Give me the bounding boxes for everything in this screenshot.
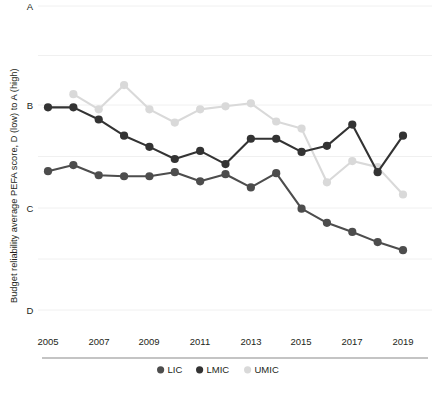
chart-container: Budget reliability average PEFA score, D… (0, 0, 440, 393)
x-tick-2017: 2017 (341, 336, 362, 347)
y-tick-d: D (27, 305, 34, 316)
x-tick-2015: 2015 (290, 336, 311, 347)
data-point (247, 99, 255, 107)
data-point (120, 132, 128, 140)
x-axis-ticks: 2005 2007 2009 2011 2013 2015 2017 2019 (37, 336, 413, 347)
legend-label: LMIC (207, 364, 230, 375)
data-point (145, 172, 153, 180)
data-point (171, 168, 179, 176)
data-point (171, 118, 179, 126)
data-point (221, 102, 229, 110)
y-tick-c: C (27, 203, 34, 214)
data-point (399, 246, 407, 254)
data-point (323, 178, 331, 186)
data-point (272, 117, 280, 125)
data-point (323, 142, 331, 150)
y-axis-title: Budget reliability average PEFA score, D… (9, 68, 19, 303)
data-point (221, 170, 229, 178)
data-point (95, 115, 103, 123)
data-point (247, 183, 255, 191)
data-point (323, 219, 331, 227)
data-point (297, 148, 305, 156)
legend-item-lic[interactable]: LIC (157, 364, 182, 375)
legend-label: UMIC (255, 364, 279, 375)
data-point (196, 147, 204, 155)
data-point (348, 157, 356, 165)
x-tick-2011: 2011 (190, 336, 210, 347)
data-point (120, 81, 128, 89)
legend-item-umic[interactable]: UMIC (244, 364, 279, 375)
data-point (272, 135, 280, 143)
x-tick-2007: 2007 (88, 336, 109, 347)
data-point (374, 168, 382, 176)
data-point (196, 105, 204, 113)
series-lmic (44, 103, 407, 176)
data-point (399, 190, 407, 198)
data-point (44, 167, 52, 175)
plot-series-layer (44, 81, 407, 254)
data-point (145, 143, 153, 151)
data-point (348, 228, 356, 236)
x-tick-2019: 2019 (392, 336, 413, 347)
legend-label: LIC (168, 364, 183, 375)
data-point (69, 90, 77, 98)
data-point (374, 238, 382, 246)
gridlines (38, 6, 432, 310)
x-tick-2005: 2005 (37, 336, 58, 347)
data-point (145, 105, 153, 113)
data-point (221, 160, 229, 168)
data-point (95, 105, 103, 113)
data-point (44, 103, 52, 111)
data-point (297, 205, 305, 213)
x-tick-2013: 2013 (240, 336, 261, 347)
legend-item-lmic[interactable]: LMIC (196, 364, 229, 375)
x-tick-2009: 2009 (138, 336, 159, 347)
y-tick-b: B (27, 100, 33, 111)
data-point (297, 125, 305, 133)
data-point (69, 161, 77, 169)
data-point (348, 120, 356, 128)
legend-marker-icon (244, 366, 251, 373)
data-point (196, 177, 204, 185)
data-point (69, 103, 77, 111)
data-point (120, 172, 128, 180)
line-chart: Budget reliability average PEFA score, D… (0, 0, 440, 393)
data-point (171, 155, 179, 163)
chart-legend: LICLMICUMIC (157, 364, 279, 375)
data-point (272, 169, 280, 177)
y-axis-ticks: A B C D (27, 1, 34, 316)
data-point (247, 135, 255, 143)
data-point (399, 132, 407, 140)
data-point (95, 171, 103, 179)
y-tick-a: A (27, 1, 34, 12)
legend-marker-icon (157, 366, 164, 373)
legend-marker-icon (196, 366, 203, 373)
